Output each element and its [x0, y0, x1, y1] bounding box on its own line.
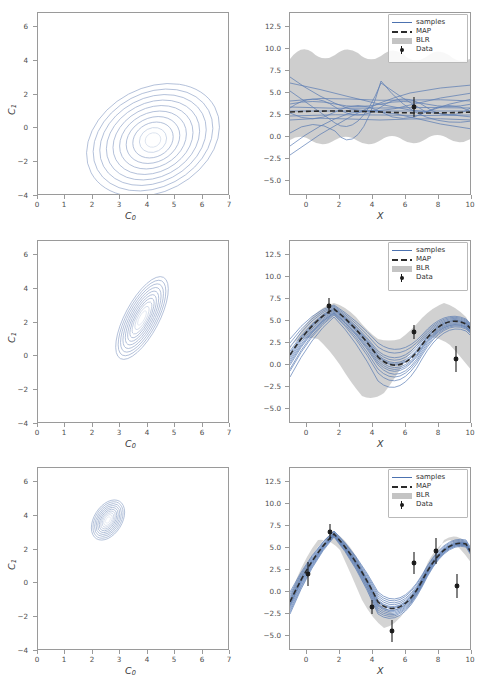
xtick-label: 3 — [117, 200, 122, 209]
ytick-label: −2.5 — [250, 609, 281, 618]
xtick-label: 1 — [62, 200, 67, 209]
xtick-label: 8 — [436, 655, 441, 664]
xtick-label: 4 — [145, 428, 150, 437]
ytick-label: −2.5 — [250, 154, 281, 163]
legend-label: MAP — [416, 482, 431, 491]
legend-label: Data — [416, 273, 433, 282]
xtick-label: 3 — [117, 655, 122, 664]
errorbar-point-icon — [392, 273, 412, 282]
legend-item-samples: samples — [392, 246, 463, 255]
legend-row2: samples MAP BLR Data — [388, 242, 468, 291]
ytick-label: −2 — [4, 385, 28, 394]
xtick-label: 0 — [35, 655, 40, 664]
panel-row1-fit: 12.5 10.0 7.5 5.0 2.5 0.0 −2.5 −5.0 — [241, 0, 483, 228]
xtick-label: 5 — [172, 200, 177, 209]
xtick-label: 0 — [35, 428, 40, 437]
xtick-label: 1 — [62, 428, 67, 437]
legend-label: BLR — [416, 491, 430, 500]
legend-row1: samples MAP BLR Data — [388, 14, 468, 63]
panel-row3-fit: 12.5 10.0 7.5 5.0 2.5 0.0 −2.5 −5.0 — [241, 455, 483, 683]
xtick-label: 0 — [304, 200, 309, 209]
legend-label: Data — [416, 45, 433, 54]
ytick-label: 2 — [8, 90, 28, 99]
legend-label: samples — [416, 18, 445, 27]
panel-row2-contour: 6 4 2 0 −2 −4 — [0, 228, 241, 456]
ytick-label: −4 — [4, 646, 28, 655]
legend-label: samples — [416, 473, 445, 482]
xtick-label: 1 — [62, 655, 67, 664]
blr-band-patch-icon — [392, 491, 412, 500]
ytick-label: −5.0 — [250, 631, 281, 640]
ytick-label: −2.5 — [250, 382, 281, 391]
ytick-label: 2 — [8, 318, 28, 327]
legend-item-data: Data — [392, 45, 463, 54]
ytick-label: 7.5 — [253, 521, 281, 530]
contour-plot-area-row2 — [37, 240, 229, 423]
xaxis-title-c0: C0 — [125, 665, 136, 677]
legend-item-data: Data — [392, 500, 463, 509]
legend-item-samples: samples — [392, 18, 463, 27]
legend-item-map: MAP — [392, 482, 463, 491]
ytick-label: 10.0 — [253, 499, 281, 508]
panel-row2-fit: 12.5 10.0 7.5 5.0 2.5 0.0 −2.5 −5.0 — [241, 228, 483, 456]
yaxis-title-c1: C1 — [6, 332, 18, 343]
xtick-label: 0 — [35, 200, 40, 209]
xtick-label: 0 — [304, 428, 309, 437]
samples-line-icon — [392, 18, 412, 27]
ytick-label: 12.5 — [253, 477, 281, 486]
errorbar-point-icon — [392, 45, 412, 54]
xtick-label: 2 — [337, 655, 342, 664]
samples-line-icon — [392, 473, 412, 482]
ytick-label: 4 — [8, 284, 28, 293]
ytick-label: 5.0 — [253, 316, 281, 325]
xtick-label: 2 — [90, 428, 95, 437]
xaxis-title-c0: C0 — [125, 438, 136, 450]
ytick-label: 6 — [8, 22, 28, 31]
xtick-label: 5 — [172, 428, 177, 437]
legend-label: MAP — [416, 27, 431, 36]
ytick-label: 12.5 — [253, 250, 281, 259]
xtick-label: 2 — [90, 200, 95, 209]
blr-band-patch-icon — [392, 264, 412, 273]
ytick-label: 12.5 — [253, 22, 281, 31]
legend-item-data: Data — [392, 273, 463, 282]
legend-row3: samples MAP BLR Data — [388, 469, 468, 518]
xtick-label: 5 — [172, 655, 177, 664]
ytick-label: −4 — [4, 191, 28, 200]
ytick-label: 0 — [8, 351, 28, 360]
ytick-label: 5.0 — [253, 543, 281, 552]
blr-band-patch-icon — [392, 36, 412, 45]
xtick-label: 6 — [403, 200, 408, 209]
ytick-label: 10.0 — [253, 272, 281, 281]
xtick-label: 8 — [436, 428, 441, 437]
contour-plot-area-row1 — [37, 12, 229, 195]
ytick-label: 10.0 — [253, 44, 281, 53]
yaxis-title-c1: C1 — [6, 559, 18, 570]
ytick-label: 2.5 — [253, 565, 281, 574]
xaxis-title-x: X — [377, 438, 384, 449]
ytick-label: 4 — [8, 511, 28, 520]
ytick-label: −5.0 — [250, 176, 281, 185]
xtick-label: 6 — [200, 655, 205, 664]
xtick-label: 4 — [145, 655, 150, 664]
legend-item-samples: samples — [392, 473, 463, 482]
map-dashed-line-icon — [392, 255, 412, 264]
xtick-label: 6 — [403, 428, 408, 437]
legend-label: MAP — [416, 255, 431, 264]
xtick-label: 8 — [436, 200, 441, 209]
xtick-label: 4 — [370, 200, 375, 209]
legend-item-blr: BLR — [392, 491, 463, 500]
xtick-label: 7 — [227, 428, 232, 437]
contour-plot-area-row3 — [37, 467, 229, 650]
xtick-label: 7 — [227, 655, 232, 664]
ytick-label: 2.5 — [253, 338, 281, 347]
xtick-label: 4 — [145, 200, 150, 209]
ytick-label: 2 — [8, 545, 28, 554]
ytick-label: 4 — [8, 56, 28, 65]
ytick-label: 6 — [8, 477, 28, 486]
xtick-label: 6 — [403, 655, 408, 664]
ytick-label: −2 — [4, 157, 28, 166]
ytick-label: 0.0 — [253, 132, 281, 141]
ytick-label: −4 — [4, 419, 28, 428]
xaxis-title-c0: C0 — [125, 210, 136, 222]
